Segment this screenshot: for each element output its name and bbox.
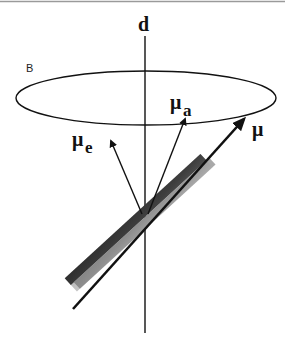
emission-label-sub: e: [85, 138, 93, 157]
emission-dipole-arrow: [111, 141, 142, 214]
absorption-label-sub: a: [183, 101, 192, 120]
absorption-label: μ a: [170, 91, 192, 120]
dipole-label: μ: [252, 118, 264, 141]
emission-label-base: μ: [72, 128, 84, 151]
emission-label: μ e: [72, 128, 93, 157]
molecule-rod: [65, 151, 216, 291]
absorption-label-base: μ: [170, 91, 182, 114]
axis-label: d: [138, 13, 149, 35]
field-label: B: [26, 62, 33, 74]
dipole-arrow: [73, 119, 244, 309]
precession-ellipse: [16, 71, 276, 125]
dipole-diagram: d B μ a μ e μ: [0, 0, 285, 344]
